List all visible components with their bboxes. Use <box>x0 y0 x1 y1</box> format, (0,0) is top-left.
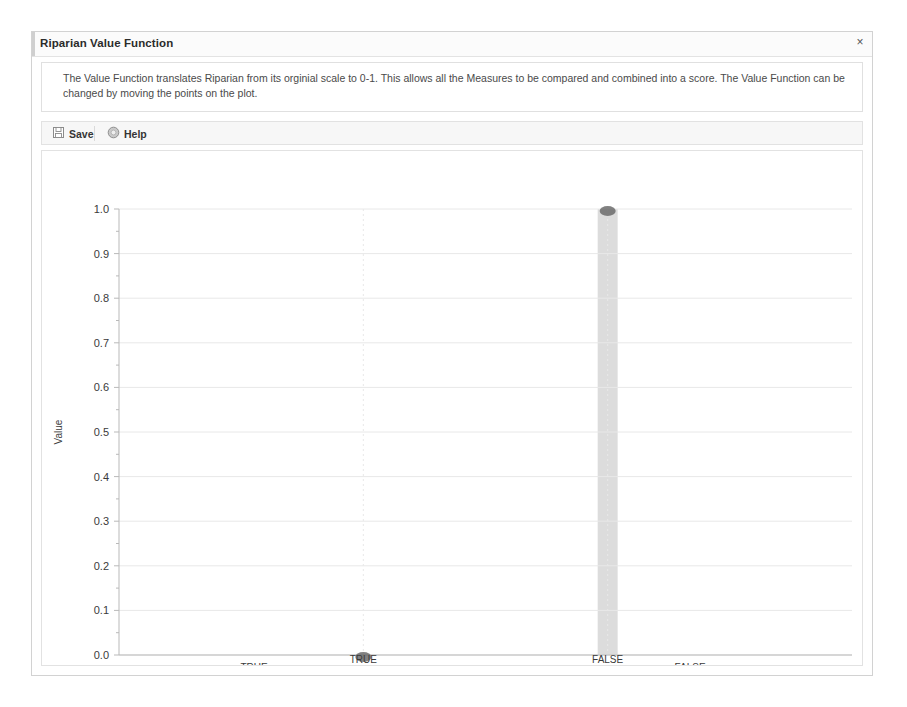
save-floppy-icon <box>52 125 65 143</box>
data-points[interactable] <box>355 206 615 662</box>
x-category-false: FALSE <box>592 654 623 665</box>
y-tick-label: 0.9 <box>94 248 109 260</box>
help-button[interactable]: Help <box>102 124 152 143</box>
y-tick-label: 0.4 <box>94 471 109 483</box>
x-tick-label-false: FALSE <box>674 662 705 665</box>
chart-toolbar: Save Help <box>41 121 863 145</box>
y-tick-label: 0.7 <box>94 337 109 349</box>
y-axis-title: Value <box>53 419 64 444</box>
screen-root: Riparian Value Function × The Value Func… <box>0 0 907 707</box>
horizontal-gridlines <box>119 209 852 655</box>
y-tick-label: 0.2 <box>94 560 109 572</box>
value-function-chart[interactable]: 0.00.10.20.30.40.50.60.70.80.91.0 Value … <box>41 150 863 666</box>
help-button-label: Help <box>124 128 147 140</box>
close-icon[interactable]: × <box>852 34 868 50</box>
data-point-marker[interactable] <box>600 206 616 216</box>
description-text: The Value Function translates Riparian f… <box>63 71 845 101</box>
dialog-title: Riparian Value Function <box>40 37 173 49</box>
y-tick-label: 0.3 <box>94 515 109 527</box>
save-button[interactable]: Save <box>47 124 99 143</box>
data-point-handle[interactable] <box>600 206 616 216</box>
x-tick-label-true: TRUE <box>240 662 268 665</box>
save-button-label: Save <box>69 128 94 140</box>
value-function-plot[interactable]: 0.00.10.20.30.40.50.60.70.80.91.0 Value … <box>42 151 862 665</box>
description-panel: The Value Function translates Riparian f… <box>41 62 863 112</box>
y-tick-label: 0.0 <box>94 649 109 661</box>
riparian-value-function-dialog: Riparian Value Function × The Value Func… <box>31 31 873 676</box>
dialog-title-bar: Riparian Value Function × <box>32 32 872 57</box>
title-accent-bar <box>32 32 35 56</box>
y-tick-label: 0.1 <box>94 604 109 616</box>
y-tick-label: 1.0 <box>94 203 109 215</box>
y-axis-ticks: 0.00.10.20.30.40.50.60.70.80.91.0 <box>94 203 119 661</box>
x-category-true: TRUE <box>350 654 377 665</box>
y-tick-label: 0.6 <box>94 381 109 393</box>
toolbar-separator <box>94 126 95 141</box>
help-circle-icon <box>107 125 120 143</box>
y-tick-label: 0.5 <box>94 426 109 438</box>
y-tick-label: 0.8 <box>94 292 109 304</box>
